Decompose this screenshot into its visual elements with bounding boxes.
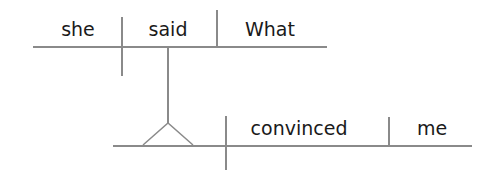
clause-object-word: me	[417, 119, 447, 138]
sentence-diagram: she said What convinced me	[0, 0, 499, 171]
clause-verb-word: convinced	[251, 119, 348, 138]
clause-baseline	[113, 145, 472, 147]
clause-verb-object-divider	[388, 117, 390, 145]
clause-subject-predicate-divider	[225, 116, 227, 170]
